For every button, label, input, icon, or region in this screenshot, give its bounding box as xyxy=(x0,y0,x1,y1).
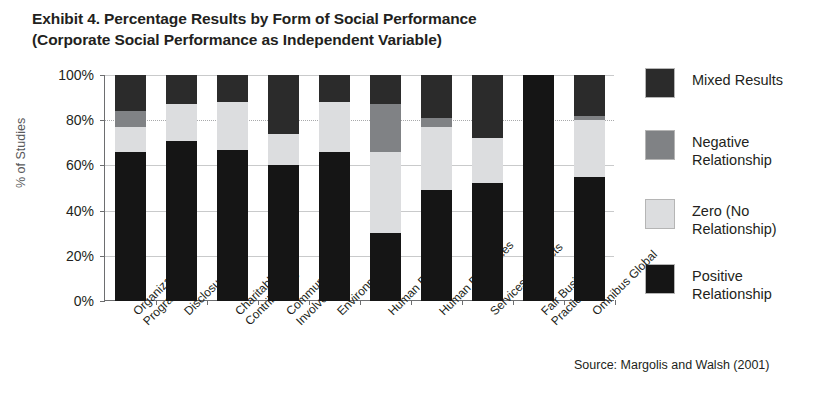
bar-segment[interactable] xyxy=(115,127,146,152)
y-tick-label-40: 40% xyxy=(34,203,94,219)
bar-column[interactable] xyxy=(115,75,146,300)
bar-column[interactable] xyxy=(574,75,605,300)
bar-column[interactable] xyxy=(319,75,350,300)
legend-label-line: Negative xyxy=(692,133,772,151)
bar-segment[interactable] xyxy=(217,102,248,149)
legend-label-mixed: Mixed Results xyxy=(692,68,783,89)
y-tick-label-100: 100% xyxy=(34,67,94,83)
legend-swatch-mixed xyxy=(645,68,675,98)
legend-label-positive: PositiveRelationship xyxy=(692,264,772,303)
x-tick-mark xyxy=(615,300,616,305)
bar-segment[interactable] xyxy=(115,75,146,111)
legend-label-line: Relationship xyxy=(692,285,772,303)
bar-segment[interactable] xyxy=(370,75,401,104)
x-tick-mark xyxy=(411,300,412,305)
bar-segment[interactable] xyxy=(523,75,554,301)
bar-column[interactable] xyxy=(166,75,197,300)
chart-figure: % of Studies Mixed ResultsNegativeRelati… xyxy=(0,0,834,420)
y-tick-label-60: 60% xyxy=(34,157,94,173)
plot-area xyxy=(104,75,614,301)
x-tick-mark xyxy=(360,300,361,305)
bar-segment[interactable] xyxy=(370,233,401,301)
bar-segment[interactable] xyxy=(268,75,299,134)
bar-segment[interactable] xyxy=(217,75,248,102)
legend-item-mixed[interactable]: Mixed Results xyxy=(645,68,783,98)
bar-column[interactable] xyxy=(523,75,554,300)
bar-column[interactable] xyxy=(370,75,401,300)
legend-item-positive[interactable]: PositiveRelationship xyxy=(645,264,772,303)
x-tick-mark xyxy=(564,300,565,305)
bar-segment[interactable] xyxy=(421,118,452,127)
bar-segment[interactable] xyxy=(115,152,146,301)
bar-segment[interactable] xyxy=(166,75,197,104)
bar-segment[interactable] xyxy=(574,75,605,116)
legend-label-line: Relationship) xyxy=(692,220,777,238)
x-tick-mark xyxy=(207,300,208,305)
y-tick-label-0: 0% xyxy=(34,293,94,309)
bar-segment[interactable] xyxy=(421,75,452,118)
bar-segment[interactable] xyxy=(472,138,503,183)
bar-segment[interactable] xyxy=(574,177,605,301)
bar-segment[interactable] xyxy=(472,75,503,138)
legend-label-negative: NegativeRelationship xyxy=(692,130,772,169)
legend-label-line: Zero (No xyxy=(692,202,777,220)
legend-label-line: Mixed Results xyxy=(692,71,783,89)
legend-swatch-zero xyxy=(645,199,675,229)
bar-segment[interactable] xyxy=(268,134,299,166)
y-tick-label-80: 80% xyxy=(34,112,94,128)
bar-column[interactable] xyxy=(217,75,248,300)
bar-segment[interactable] xyxy=(166,141,197,301)
bar-segment[interactable] xyxy=(319,102,350,152)
legend-item-zero[interactable]: Zero (NoRelationship) xyxy=(645,199,777,238)
source-note: Source: Margolis and Walsh (2001) xyxy=(574,358,769,372)
bar-segment[interactable] xyxy=(370,152,401,233)
x-tick-mark xyxy=(309,300,310,305)
bar-segment[interactable] xyxy=(370,104,401,151)
bar-segment[interactable] xyxy=(268,165,299,301)
bar-segment[interactable] xyxy=(166,104,197,140)
x-tick-mark xyxy=(513,300,514,305)
bar-segment[interactable] xyxy=(319,152,350,301)
legend-label-line: Relationship xyxy=(692,151,772,169)
bar-segment[interactable] xyxy=(319,75,350,102)
bar-segment[interactable] xyxy=(472,183,503,301)
bar-segment[interactable] xyxy=(421,127,452,190)
legend-swatch-negative xyxy=(645,130,675,160)
bar-column[interactable] xyxy=(421,75,452,300)
y-tick-label-20: 20% xyxy=(34,248,94,264)
bar-column[interactable] xyxy=(472,75,503,300)
bar-segment[interactable] xyxy=(574,116,605,121)
x-tick-mark xyxy=(156,300,157,305)
bar-segment[interactable] xyxy=(574,120,605,177)
x-tick-mark xyxy=(258,300,259,305)
y-tick-mark-0 xyxy=(100,301,105,302)
legend-label-zero: Zero (NoRelationship) xyxy=(692,199,777,238)
y-axis-title: % of Studies xyxy=(14,118,28,188)
bar-segment[interactable] xyxy=(217,150,248,301)
bar-column[interactable] xyxy=(268,75,299,300)
bar-segment[interactable] xyxy=(421,190,452,301)
legend-label-line: Positive xyxy=(692,267,772,285)
x-tick-mark xyxy=(462,300,463,305)
bar-segment[interactable] xyxy=(115,111,146,127)
legend-item-negative[interactable]: NegativeRelationship xyxy=(645,130,772,169)
